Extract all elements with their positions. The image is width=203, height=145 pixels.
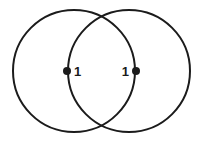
overlapping-circles-diagram: 1 1 — [0, 0, 203, 145]
left-point-dot — [63, 67, 71, 75]
figure-canvas: 1 1 — [0, 0, 203, 145]
right-point-dot — [132, 67, 140, 75]
diagram-background — [0, 0, 203, 145]
right-point-label: 1 — [122, 64, 129, 79]
left-point-label: 1 — [74, 64, 81, 79]
